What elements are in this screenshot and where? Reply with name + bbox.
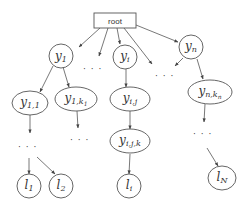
edge-yn-ynkn	[197, 59, 203, 79]
node-ynkn: yn,kn	[188, 80, 232, 104]
node-l2-sub: 2	[59, 184, 65, 193]
node-l2: l2	[49, 174, 73, 198]
edge-dots-c-l2	[37, 157, 55, 174]
node-y1: y1	[49, 44, 73, 68]
node-ynkn-subsub: n	[218, 93, 222, 100]
edge-y1k1-dots-d	[77, 111, 78, 128]
node-yn: yn	[179, 35, 203, 59]
node-li-sub: i	[130, 184, 133, 193]
ellipsis-e: · · ·	[193, 129, 212, 139]
edge-root-y1	[79, 28, 100, 47]
root-node: root	[94, 13, 136, 28]
ellipsis-d: · · ·	[70, 135, 89, 145]
node-y11-sub: 1,1	[27, 101, 40, 110]
node-yijk-sub: i,j,k	[126, 139, 141, 148]
node-yijk: yi,j,k	[110, 129, 150, 153]
edge-dots-e-lN	[207, 148, 218, 166]
node-y1-sub: 1	[62, 55, 67, 64]
node-y1k1: y1,k1	[55, 87, 97, 111]
node-y1k1-subsub: 1	[84, 100, 88, 107]
tree-diagram: root y1 yi yn · · · · · · · · · · · · · …	[0, 0, 249, 207]
edge-ynkn-dots-e	[204, 104, 205, 122]
ellipsis-b: · · ·	[155, 71, 174, 81]
node-yij-sub: i,j	[130, 97, 138, 106]
edge-root-yn	[136, 25, 178, 42]
node-lN-sub: N	[219, 176, 228, 185]
node-yi: yi	[113, 45, 137, 69]
node-yn-sub: n	[192, 45, 197, 54]
edge-yn-dots-b	[175, 58, 183, 66]
root-label: root	[108, 17, 123, 26]
node-l1: l1	[17, 174, 41, 198]
ellipsis-a: · · ·	[83, 64, 102, 74]
edge-y1-y11	[40, 66, 53, 92]
node-y11: y1,1	[12, 91, 48, 115]
node-li: li	[117, 174, 141, 198]
edge-root-yi	[117, 28, 120, 44]
node-yi-sub: i	[127, 55, 130, 64]
ellipsis-c: · · ·	[18, 142, 37, 152]
edge-root-dots-a	[99, 28, 108, 56]
node-y1k1-sub: 1,k	[71, 97, 84, 106]
node-ynkn-sub: n,k	[205, 90, 218, 99]
edge-yijk-li	[129, 154, 130, 174]
node-l1-sub: 1	[28, 184, 33, 193]
node-yij: yi,j	[110, 87, 150, 111]
edge-y1-y1k1	[63, 67, 69, 87]
node-lN: lN	[208, 166, 236, 190]
